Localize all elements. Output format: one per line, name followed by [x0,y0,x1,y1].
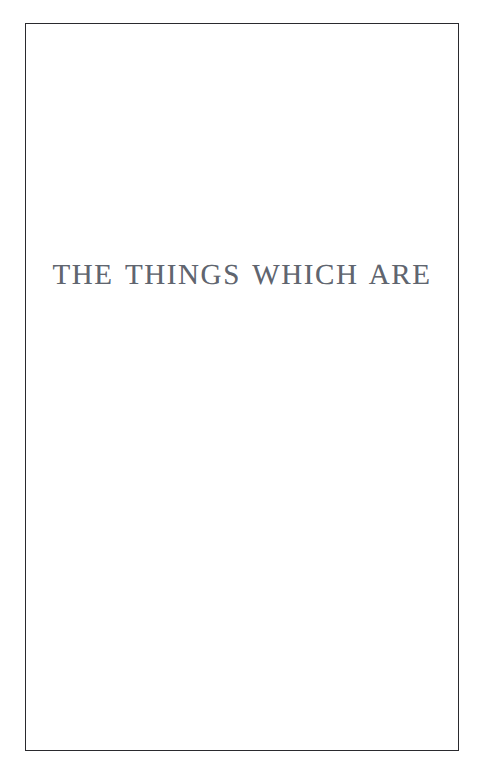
page-content-area: THE THINGS WHICH ARE [26,24,458,750]
book-page: THE THINGS WHICH ARE [0,0,482,773]
page-border-frame: THE THINGS WHICH ARE [25,23,459,751]
section-title-block: THE THINGS WHICH ARE [26,258,458,292]
section-title: THE THINGS WHICH ARE [52,258,431,292]
